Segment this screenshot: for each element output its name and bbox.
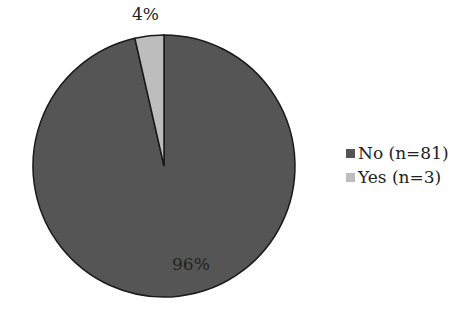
legend-item-yes: Yes (n=3) [346, 165, 449, 189]
legend-swatch-no [346, 149, 355, 158]
legend-swatch-yes [346, 173, 355, 182]
legend: No (n=81) Yes (n=3) [346, 141, 449, 189]
legend-item-no: No (n=81) [346, 141, 449, 165]
legend-label-yes: Yes (n=3) [358, 167, 441, 187]
legend-label-no: No (n=81) [358, 143, 449, 163]
data-label-yes: 4% [132, 4, 159, 24]
data-label-no: 96% [172, 254, 210, 274]
